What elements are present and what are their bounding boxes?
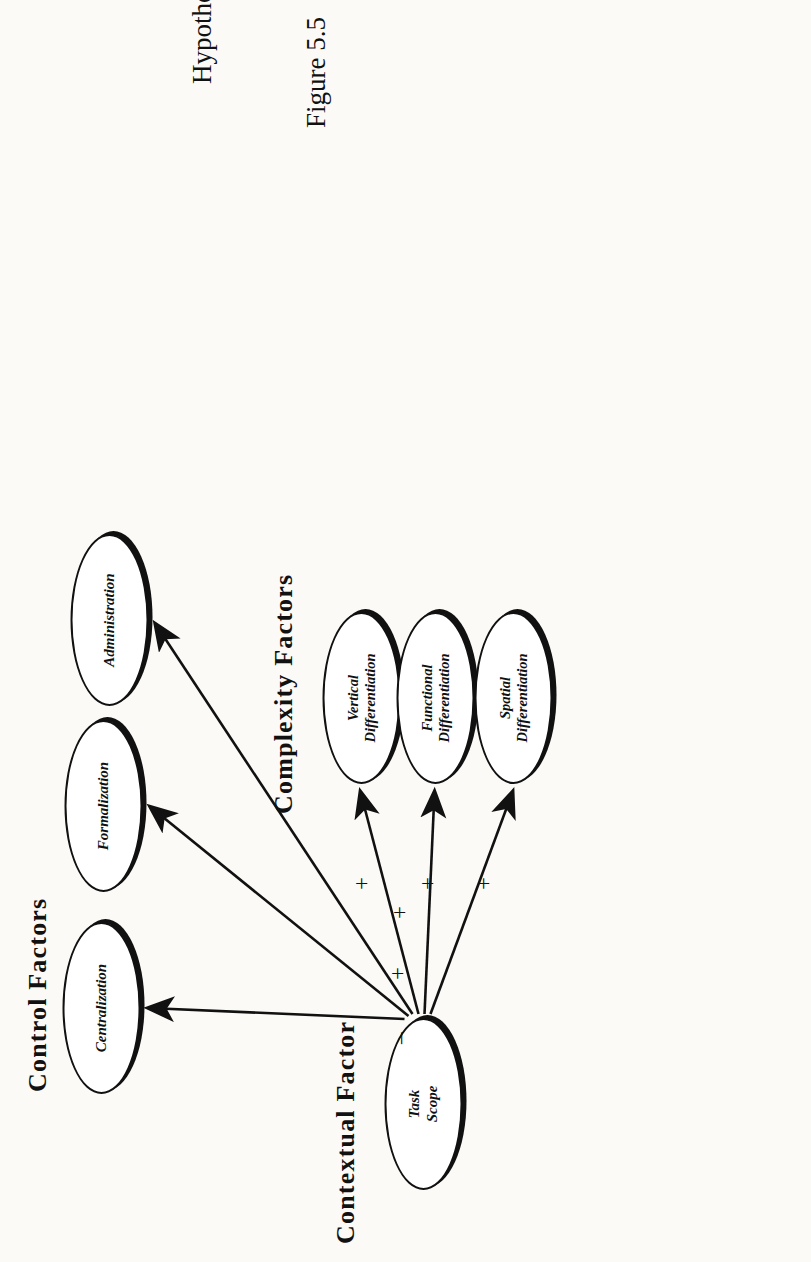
node-spatial-differentiation[interactable]: Spatial Differentiation	[474, 612, 552, 784]
node-vertical-differentiation-label: Vertical Differentiation	[344, 643, 378, 752]
node-functional-differentiation-label: Functional Differentiation	[418, 643, 452, 752]
figure-caption: Figure 5.5 Hypothesized Direct Effects o…	[0, 22, 811, 142]
node-spatial-differentiation-label: Spatial Differentiation	[496, 643, 530, 752]
heading-control-factors: Control Factors	[22, 898, 52, 1092]
edge-task-scope-to-centralization	[148, 1008, 404, 1019]
edge-sign-vertical-differentiation: +	[348, 877, 374, 890]
node-centralization[interactable]: Centralization	[62, 922, 140, 1094]
edge-task-scope-to-spatial-differentiation	[430, 792, 512, 1014]
node-functional-differentiation[interactable]: Functional Differentiation	[396, 612, 474, 784]
node-vertical-differentiation-oval: Vertical Differentiation	[322, 612, 400, 784]
node-centralization-label: Centralization	[92, 954, 110, 1062]
node-functional-differentiation-oval: Functional Differentiation	[396, 612, 474, 784]
node-administration-label: Administration	[100, 563, 118, 676]
heading-complexity-factors: Complexity Factors	[268, 574, 298, 814]
edge-sign-administration: +	[386, 906, 412, 919]
node-task-scope-label: Task Scope	[405, 1076, 440, 1133]
node-vertical-differentiation[interactable]: Vertical Differentiation	[322, 612, 400, 784]
node-administration[interactable]: Administration	[70, 534, 148, 706]
node-formalization[interactable]: Formalization	[64, 720, 142, 892]
edge-task-scope-to-functional-differentiation	[424, 792, 434, 1014]
edge-sign-formalization: +	[384, 967, 410, 980]
caption-title: Hypothesized Direct Effects of Task Scop…	[186, 0, 217, 84]
rotated-figure-canvas: Contextual Factor Complexity Factors Con…	[0, 0, 811, 1262]
node-formalization-label: Formalization	[94, 752, 112, 860]
heading-contextual-factor: Contextual Factor	[330, 1021, 360, 1244]
node-formalization-oval: Formalization	[64, 720, 142, 892]
node-centralization-oval: Centralization	[62, 922, 140, 1094]
edge-sign-functional-differentiation: +	[414, 877, 440, 890]
node-administration-oval: Administration	[70, 534, 148, 706]
node-spatial-differentiation-oval: Spatial Differentiation	[474, 612, 552, 784]
edge-sign-centralization: –	[386, 1033, 412, 1045]
edge-task-scope-to-formalization	[150, 807, 408, 1016]
caption-number: Figure 5.5	[300, 17, 331, 128]
edge-sign-spatial-differentiation: +	[470, 877, 496, 890]
figure-page: Contextual Factor Complexity Factors Con…	[0, 0, 811, 1262]
